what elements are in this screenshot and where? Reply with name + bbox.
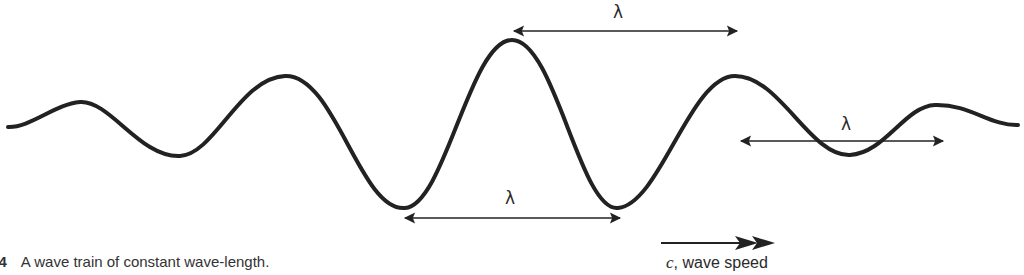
figure-number: 6.4 xyxy=(0,253,7,270)
wave-speed-label: c, wave speed xyxy=(666,253,768,273)
wave-curve xyxy=(8,40,1018,208)
figure-caption: 6.4A wave train of constant wave-length. xyxy=(0,253,269,270)
lambda-label-right: λ xyxy=(841,114,851,134)
speed-symbol: c xyxy=(666,253,674,272)
lambda-label-top: λ xyxy=(613,2,623,22)
speed-text: , wave speed xyxy=(674,254,768,271)
caption-text: A wave train of constant wave-length. xyxy=(21,253,269,270)
wave-speed-arrow-icon xyxy=(661,236,775,250)
lambda-label-bottom: λ xyxy=(505,188,515,208)
wave-diagram xyxy=(0,0,1024,275)
